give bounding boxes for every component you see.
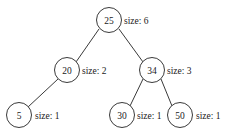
tree-edge-n34-to-n30 [130, 79, 143, 106]
tree-node-34[interactable]: 34size: 3 [140, 58, 192, 83]
tree-node-20[interactable]: 20size: 2 [55, 58, 107, 83]
tree-edge-n20-to-n5 [28, 79, 58, 107]
tree-node-30[interactable]: 30size: 1 [110, 103, 162, 128]
node-key-label-50: 50 [175, 111, 185, 121]
node-size-label-25: size: 6 [124, 16, 149, 26]
node-key-label-25: 25 [104, 16, 114, 26]
node-size-label-20: size: 2 [82, 66, 107, 76]
tree-node-25[interactable]: 25size: 6 [97, 8, 149, 33]
node-key-label-30: 30 [117, 111, 127, 121]
tree-edge-n25-to-n34 [119, 29, 143, 62]
bst-size-diagram: 25size: 620size: 234size: 35size: 130siz… [0, 0, 233, 133]
node-key-label-20: 20 [62, 66, 72, 76]
node-size-label-5: size: 1 [35, 111, 60, 121]
node-group: 25size: 620size: 234size: 35size: 130siz… [7, 8, 221, 128]
tree-edge-n25-to-n20 [76, 29, 99, 62]
node-key-label-34: 34 [147, 66, 157, 76]
tree-canvas: 25size: 620size: 234size: 35size: 130siz… [0, 0, 233, 133]
node-size-label-30: size: 1 [137, 111, 162, 121]
tree-node-50[interactable]: 50size: 1 [168, 103, 221, 128]
tree-node-5[interactable]: 5size: 1 [7, 103, 60, 128]
node-size-label-50: size: 1 [196, 111, 221, 121]
tree-edge-n34-to-n50 [161, 79, 172, 106]
node-key-label-5: 5 [17, 111, 22, 121]
node-size-label-34: size: 3 [167, 66, 192, 76]
